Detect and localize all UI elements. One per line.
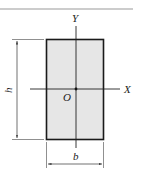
origin-label: O <box>63 91 71 103</box>
origin-point <box>75 88 78 91</box>
x-axis-label: X <box>123 83 132 95</box>
y-axis-label: Y <box>72 12 80 24</box>
cross-section-diagram: Y X O h b <box>0 0 141 182</box>
width-label: b <box>73 150 79 162</box>
height-label: h <box>2 87 14 93</box>
